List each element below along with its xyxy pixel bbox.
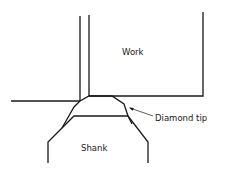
work-bottom-right-edge — [89, 12, 203, 96]
shank — [48, 116, 148, 163]
shank-outline — [48, 116, 148, 163]
arrowhead-icon — [129, 108, 134, 111]
diamond-tip-callout — [129, 108, 153, 117]
diamond-tip-label: Diamond tip — [155, 113, 207, 123]
shank-label: Shank — [81, 143, 107, 153]
work-label: Work — [122, 47, 144, 57]
leader-line — [130, 108, 153, 116]
cutting-tool-diagram: Work Diamond tip Shank — [0, 0, 225, 173]
work-piece — [11, 12, 203, 101]
